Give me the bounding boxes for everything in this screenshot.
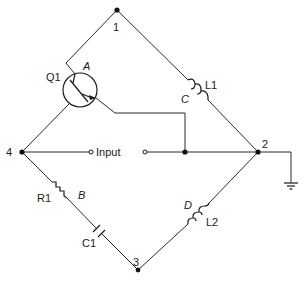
arm-b-wires	[22, 152, 138, 270]
node-2-dot	[255, 149, 260, 154]
node-1-dot	[114, 7, 119, 12]
arm-d-wires	[138, 152, 258, 270]
arm-d-label: D	[184, 199, 192, 211]
resistor-r1-icon	[52, 182, 67, 198]
c1-label: C1	[82, 237, 96, 249]
circuit-diagram: 1 2 3 4 Q1 A L1 C R1 B C1 L2 D Input	[0, 0, 306, 284]
input-terminal-left	[89, 150, 93, 154]
emitter-junction-dot	[182, 149, 187, 154]
input-terminal-right	[143, 150, 147, 154]
node-4-label: 4	[6, 146, 12, 158]
node-3-dot	[136, 268, 141, 273]
arm-b-label: B	[78, 189, 85, 201]
node-3-label: 3	[133, 256, 139, 268]
ground-icon	[258, 152, 298, 189]
l1-label: L1	[205, 79, 217, 91]
arm-c-label: C	[181, 93, 189, 105]
q1-label: Q1	[46, 71, 61, 83]
node-1-label: 1	[113, 21, 119, 33]
transistor-q1-icon	[63, 73, 97, 107]
l2-label: L2	[206, 216, 218, 228]
node-2-label: 2	[262, 138, 268, 150]
arm-c-wires	[117, 10, 258, 152]
node-4-dot	[19, 149, 24, 154]
arm-a-label: A	[82, 60, 90, 72]
input-label: Input	[96, 146, 120, 158]
r1-label: R1	[37, 192, 51, 204]
